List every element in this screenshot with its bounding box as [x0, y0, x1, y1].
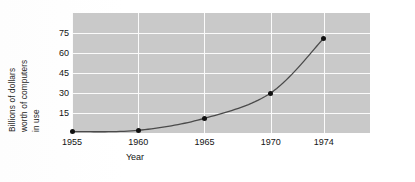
x-axis-tick-label: 1955	[62, 137, 82, 147]
x-axis-title: Year	[0, 152, 415, 162]
y-axis-tick-label: 75	[47, 28, 69, 38]
data-point-marker	[136, 128, 141, 133]
y-axis-title-line-2: worth of computers	[19, 60, 29, 132]
data-series-line	[72, 13, 370, 133]
x-axis-tick-label: 1974	[314, 137, 334, 147]
data-point-marker	[70, 129, 75, 134]
x-axis-tick-label: 1970	[261, 137, 281, 147]
data-point-marker	[321, 36, 326, 41]
y-axis-tick-label: 30	[47, 88, 69, 98]
x-axis-tick-label: 1960	[128, 137, 148, 147]
y-axis-tick-label: 60	[47, 48, 69, 58]
y-axis-title-line-1: Billions of dollars	[7, 68, 17, 132]
plot-area	[72, 13, 370, 133]
data-point-marker	[202, 116, 207, 121]
x-axis-title-text: Year	[126, 152, 144, 162]
x-axis-tick-label: 1965	[194, 137, 214, 147]
x-axis-tick-labels: 19551960196519701974	[0, 137, 415, 151]
chart-figure: Billions of dollars worth of computers i…	[0, 0, 415, 182]
y-axis-title-line-3: in use	[31, 109, 41, 132]
y-axis-tick-label: 45	[47, 68, 69, 78]
data-point-marker	[268, 91, 273, 96]
y-axis-tick-label: 15	[47, 108, 69, 118]
